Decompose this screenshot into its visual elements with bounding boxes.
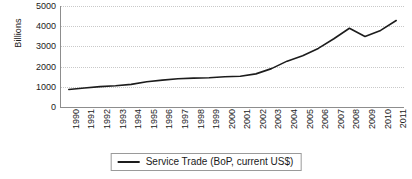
y-axis-tick-label: 3000: [18, 42, 56, 51]
x-axis-tick-label: 2003: [274, 109, 283, 129]
x-axis-tick-label: 2004: [290, 109, 299, 129]
series-line: [69, 21, 396, 90]
y-axis-tick-label: 4000: [18, 22, 56, 31]
legend-label: Service Trade (BoP, current US$): [146, 156, 294, 167]
y-axis-tick-label: 0: [18, 103, 56, 112]
series-line-chart: [61, 6, 404, 107]
x-axis-tick-label: 2005: [306, 109, 315, 129]
x-axis-tick-label: 2001: [243, 109, 252, 129]
x-axis-tick-label: 2008: [352, 109, 361, 129]
x-axis-tick-label: 1991: [87, 109, 96, 129]
plot-area: [60, 6, 404, 108]
x-axis-tick-label: 1992: [103, 109, 112, 129]
x-axis-tick-label: 2010: [384, 109, 393, 129]
x-axis-tick-label: 1994: [134, 109, 143, 129]
legend-line-swatch-icon: [118, 161, 140, 163]
x-axis-tick-label: 2002: [259, 109, 268, 129]
x-axis-tick-label: 1998: [197, 109, 206, 129]
x-axis-tick-label: 1996: [165, 109, 174, 129]
x-axis-tick-label: 1999: [212, 109, 221, 129]
x-axis-tick-labels: 1990199119921993199419951996199719981999…: [60, 109, 403, 149]
y-axis-tick-label: 1000: [18, 82, 56, 91]
y-axis-tick-label: 5000: [18, 2, 56, 11]
y-axis-tick-label: 2000: [18, 62, 56, 71]
x-axis-tick-label: 1995: [150, 109, 159, 129]
x-axis-tick-label: 2000: [228, 109, 237, 129]
x-axis-tick-label: 2009: [368, 109, 377, 129]
x-axis-tick-label: 1997: [181, 109, 190, 129]
line-chart: Billions 010002000300040005000 199019911…: [0, 0, 412, 179]
x-axis-tick-label: 2011: [399, 109, 408, 128]
x-axis-tick-label: 1990: [72, 109, 81, 129]
x-axis-tick-label: 1993: [119, 109, 128, 129]
y-axis-tick-labels: 010002000300040005000: [18, 6, 56, 107]
x-axis-tick-label: 2006: [321, 109, 330, 129]
x-axis-tick-label: 2007: [337, 109, 346, 129]
chart-legend: Service Trade (BoP, current US$): [111, 153, 302, 171]
